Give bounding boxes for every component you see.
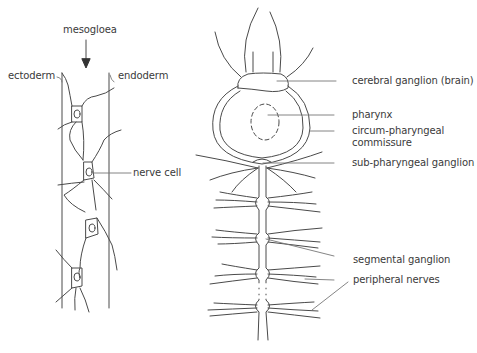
earthworm-nervous-system-drawing bbox=[196, 8, 348, 340]
label-ectoderm: ectoderm bbox=[8, 70, 55, 82]
cerebral-ganglion bbox=[238, 73, 289, 92]
nerve-cell-body bbox=[86, 218, 98, 238]
pharynx-outline bbox=[251, 104, 279, 140]
label-pharynx: pharynx bbox=[352, 109, 392, 121]
label-sub-pharyngeal-ganglion: sub-pharyngeal ganglion bbox=[352, 157, 474, 169]
label-endoderm: endoderm bbox=[118, 70, 168, 82]
label-circum-pharyngeal: circum-pharyngeal bbox=[352, 125, 444, 137]
commissure-outer bbox=[213, 86, 310, 164]
label-segmental-ganglion: segmental ganglion bbox=[353, 254, 450, 266]
nervous-system-diagram: mesogloea ectoderm endoderm nerve cell c… bbox=[0, 0, 477, 353]
label-mesogloea: mesogloea bbox=[63, 24, 117, 36]
label-commissure: commissure bbox=[352, 137, 412, 149]
mesogloea-arrow-head-icon bbox=[82, 59, 90, 68]
ventral-nerve-cord-left bbox=[256, 166, 260, 340]
commissure-inner bbox=[220, 91, 303, 158]
label-cerebral-ganglion: cerebral ganglion (brain) bbox=[352, 75, 474, 87]
ventral-nerve-cord-right bbox=[266, 166, 270, 340]
diagram-drawing bbox=[0, 0, 477, 353]
label-nerve-cell: nerve cell bbox=[133, 167, 181, 179]
label-peripheral-nerves: peripheral nerves bbox=[353, 274, 440, 286]
nerve-cell-body bbox=[84, 162, 94, 180]
